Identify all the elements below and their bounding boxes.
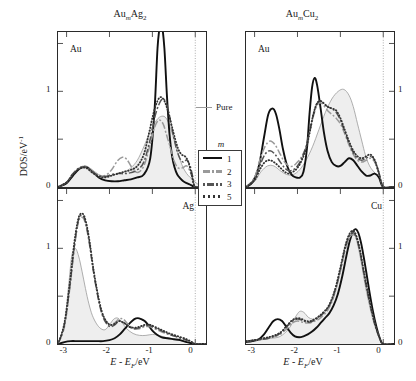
plot-area-cu: [246, 189, 394, 344]
panel-label-au-cu-au: Au: [258, 44, 270, 54]
x-tick-label: -1: [145, 345, 153, 355]
y-tick-label: 0: [398, 180, 403, 190]
panel-au-in-au-ag: Au: [57, 31, 207, 188]
y-tick-label: 0: [46, 180, 51, 190]
x-axis-label-right: E - EF/eV: [228, 356, 378, 370]
plot-area-au-in-au-ag: [58, 32, 206, 187]
y-tick-label: 1: [46, 84, 51, 94]
panel-label-cu: Cu: [371, 201, 382, 211]
column-title-au-cu: AumCu2: [232, 8, 372, 22]
legend-m-title: m: [196, 139, 246, 149]
panel-label-ag: Ag: [182, 201, 194, 211]
legend-label-m2: 2: [227, 167, 232, 177]
plot-area-au-in-au-cu: [246, 32, 394, 187]
panel-label-au-ag-au: Au: [70, 44, 82, 54]
x-tick-label: -3: [248, 345, 256, 355]
panel-cu: Cu: [245, 188, 395, 345]
y-tick-label: 0: [46, 337, 51, 347]
legend-label-m3: 3: [227, 179, 232, 189]
legend-item-m2: 2: [199, 167, 241, 177]
column-title-au-cu-text: AumCu2: [286, 8, 318, 19]
legend-swatch-m2: [203, 170, 222, 173]
plot-area-ag: [58, 189, 206, 344]
y-axis-label: DOS/eV-1: [17, 101, 29, 211]
x-tick-label: -2: [290, 345, 298, 355]
legend-swatch-m5: [203, 195, 222, 198]
x-axis-label-left: E - EF/eV: [55, 356, 205, 370]
dos-figure: AumAg2 AumCu2 DOS/eV-1 E - EF/eV E - EF/…: [0, 0, 416, 381]
legend-pure-swatch: [196, 107, 212, 108]
legend-swatch-m1: [203, 157, 222, 162]
x-tick-label: 0: [376, 345, 381, 355]
legend-label-m5: 5: [227, 192, 232, 202]
column-title-au-ag: AumAg2: [60, 8, 200, 22]
panel-au-in-au-cu: Au: [245, 31, 395, 188]
x-tick-label: -3: [60, 345, 68, 355]
legend-item-m3: 3: [199, 179, 241, 189]
legend-swatch-m3: [203, 183, 222, 186]
y-tick-label: 1: [46, 241, 51, 251]
y-tick-label: 0: [398, 337, 403, 347]
y-tick-label: 1: [398, 241, 403, 251]
legend-box: 1 2 3 5: [198, 150, 242, 206]
y-tick-label: 1: [398, 84, 403, 94]
panel-ag: Ag: [57, 188, 207, 345]
legend-pure: Pure: [196, 99, 246, 115]
legend-pure-label: Pure: [216, 102, 233, 112]
x-tick-label: 0: [188, 345, 193, 355]
legend-item-m5: 5: [199, 192, 241, 202]
legend-item-m1: 1: [199, 154, 241, 164]
column-title-au-ag-text: AumAg2: [113, 8, 146, 19]
x-tick-label: -1: [333, 345, 341, 355]
legend-label-m1: 1: [227, 154, 232, 164]
x-tick-label: -2: [102, 345, 110, 355]
